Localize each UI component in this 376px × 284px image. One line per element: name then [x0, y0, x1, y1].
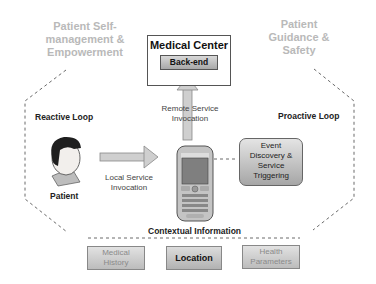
- remote-invocation-label: Remote Service Invocation: [150, 104, 230, 124]
- label-line: Invocation: [98, 183, 160, 193]
- proactive-loop-outline: [313, 69, 354, 230]
- label-line: Triggering: [240, 171, 302, 181]
- backend-box: Back-end: [160, 55, 218, 70]
- title-line: Patient: [264, 18, 334, 31]
- label-line: Medical: [102, 248, 130, 258]
- top-left-title: Patient Self- management & Empowerment: [40, 20, 130, 59]
- label-line: Invocation: [150, 114, 230, 124]
- patient-label: Patient: [50, 191, 78, 201]
- reactive-loop-label: Reactive Loop: [35, 112, 93, 122]
- title-line: management &: [40, 33, 130, 46]
- title-line: Empowerment: [40, 46, 130, 59]
- label-line: History: [102, 258, 130, 268]
- contextual-information-title: Contextual Information: [148, 226, 241, 236]
- top-right-title: Patient Guidance & Safety: [264, 18, 334, 57]
- local-arrow-icon: [100, 146, 158, 168]
- event-discovery-box: Event Discovery & Service Triggering: [239, 138, 303, 186]
- health-parameters-box: Health Parameters: [242, 245, 300, 269]
- title-line: Safety: [264, 44, 334, 57]
- title-line: Guidance &: [264, 31, 334, 44]
- medical-center-title: Medical Center: [148, 39, 230, 51]
- label-line: Local Service: [98, 173, 160, 183]
- label-line: Discovery &: [240, 151, 302, 161]
- patient-avatar-icon: [51, 137, 81, 186]
- label-line: Parameters: [250, 257, 291, 267]
- mobile-phone-icon: [177, 146, 213, 221]
- label-line: Remote Service: [150, 104, 230, 114]
- medical-center-box: Medical Center Back-end: [147, 35, 231, 86]
- label-line: Event: [240, 141, 302, 151]
- location-box: Location: [166, 246, 222, 270]
- label-line: Service: [240, 161, 302, 171]
- label-line: Health: [250, 247, 291, 257]
- proactive-loop-label: Proactive Loop: [278, 111, 339, 121]
- title-line: Patient Self-: [40, 20, 130, 33]
- medical-history-box: Medical History: [87, 246, 145, 270]
- label-line: Location: [175, 253, 213, 263]
- local-invocation-label: Local Service Invocation: [98, 173, 160, 193]
